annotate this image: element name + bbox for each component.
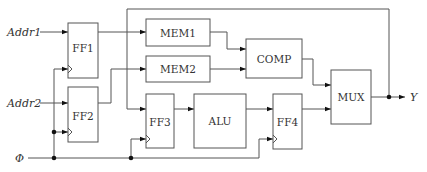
block-label: FF1	[72, 42, 93, 54]
block-label: FF3	[149, 116, 170, 128]
block-label: COMP	[257, 53, 291, 65]
junction-dot	[129, 156, 134, 161]
input-label-addr2: Addr2	[6, 97, 41, 110]
wire-clock-ff1	[54, 69, 68, 158]
block-label: FF2	[72, 110, 93, 122]
block-mux: MUX	[331, 70, 371, 124]
circuit-diagram: FF1 FF2 MEM1 MEM2 COMP FF3 ALU FF4 MUX A…	[0, 0, 427, 172]
block-ff4: FF4	[273, 94, 302, 149]
block-label: MEM1	[160, 27, 196, 39]
junction-dot	[52, 130, 57, 135]
junction-dot	[52, 156, 57, 161]
wire-comp-mux	[302, 59, 331, 85]
input-label-clock: Φ	[15, 152, 24, 165]
wire-ff2-mem2	[98, 69, 146, 103]
block-ff2: FF2	[68, 87, 98, 142]
block-alu: ALU	[194, 94, 246, 148]
wire-mem1-comp	[210, 32, 246, 49]
block-comp: COMP	[246, 39, 302, 78]
wire-clock-ff4	[259, 139, 273, 158]
wire-clock-ff3	[131, 139, 146, 158]
block-mem1: MEM1	[146, 19, 210, 46]
block-label: MUX	[337, 91, 365, 103]
block-ff1: FF1	[68, 23, 98, 78]
block-label: FF4	[277, 116, 299, 128]
block-label: ALU	[208, 115, 232, 127]
junction-dot	[387, 95, 392, 100]
block-label: MEM2	[160, 63, 196, 75]
output-label-y: Y	[410, 91, 419, 104]
block-ff3: FF3	[146, 94, 174, 148]
input-label-addr1: Addr1	[6, 26, 41, 39]
block-mem2: MEM2	[146, 56, 210, 82]
